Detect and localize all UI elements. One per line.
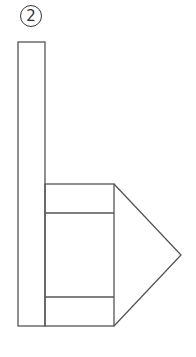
vertical-post bbox=[18, 42, 45, 326]
diagram-canvas bbox=[0, 0, 196, 357]
box-body bbox=[45, 184, 114, 326]
arrow-head-triangle bbox=[114, 184, 181, 326]
